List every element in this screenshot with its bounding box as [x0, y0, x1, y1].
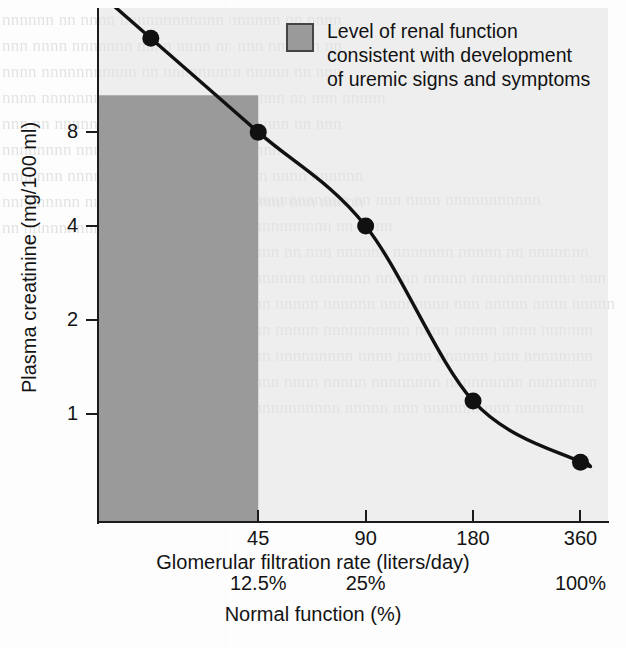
- data-point: [250, 124, 267, 141]
- y-axis-tick-label: 4: [48, 214, 78, 237]
- x-axis-tick-label: 90: [336, 527, 396, 550]
- y-axis-line: [97, 8, 99, 524]
- y-axis-title: Plasma creatinine (mg/100 ml): [18, 43, 41, 473]
- y-axis-tick-label: 1: [48, 402, 78, 425]
- x-axis-tick-label: 45: [228, 527, 288, 550]
- legend-line-2: consistent with development: [327, 44, 590, 68]
- y-axis-tick: [86, 413, 98, 415]
- y-axis-tick-label: 2: [48, 308, 78, 331]
- legend-text: Level of renal function consistent with …: [327, 20, 590, 91]
- data-point: [142, 30, 159, 47]
- x-axis-tick-label: 360: [550, 527, 610, 550]
- x-axis-tick: [579, 510, 581, 523]
- normal-function-percent-label: 12.5%: [218, 572, 298, 595]
- y-axis-tick-label: 8: [48, 120, 78, 143]
- y-axis-tick: [86, 319, 98, 321]
- data-point: [465, 392, 482, 409]
- legend-line-3: of uremic signs and symptoms: [327, 68, 590, 92]
- x-axis-tick: [365, 510, 367, 523]
- figure-root: nnnnnn nn nnnn nnnnnnnnnnnn nnnnnn nn nn…: [0, 0, 626, 648]
- normal-function-percent-label: 25%: [326, 572, 406, 595]
- x-axis-tick: [472, 510, 474, 523]
- legend-line-1: Level of renal function: [327, 20, 590, 44]
- secondary-x-axis-title: Normal function (%): [0, 603, 626, 626]
- legend-swatch-uremic: [286, 23, 314, 52]
- data-point: [357, 218, 374, 235]
- y-axis-tick: [86, 225, 98, 227]
- x-axis-line: [97, 521, 609, 523]
- legend: Level of renal function consistent with …: [286, 20, 590, 91]
- x-axis-tick-label: 180: [443, 527, 503, 550]
- y-axis-tick: [86, 131, 98, 133]
- x-axis-title: Glomerular filtration rate (liters/day): [0, 551, 626, 574]
- x-axis-tick: [257, 510, 259, 523]
- normal-function-percent-label: 100%: [540, 572, 620, 595]
- data-point: [572, 454, 589, 471]
- uremic-shaded-region: [98, 95, 258, 522]
